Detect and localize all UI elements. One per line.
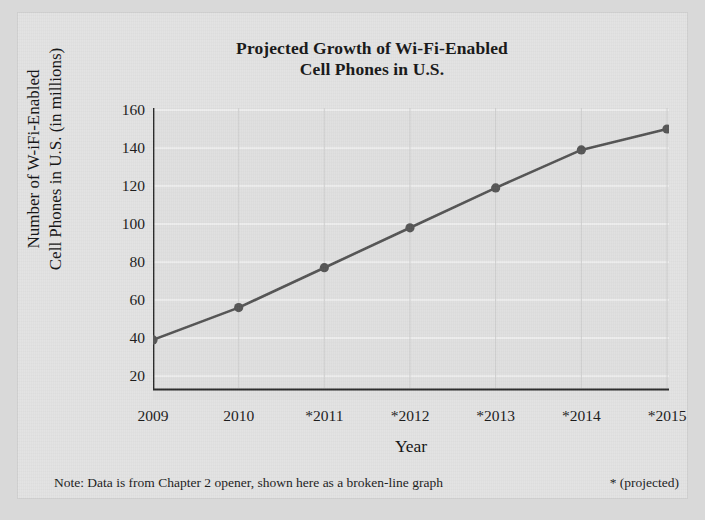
y-tick-label: 160	[105, 102, 145, 118]
x-axis-label: Year	[153, 436, 669, 457]
y-tick-label: 140	[105, 140, 145, 156]
data-point-marker[interactable]	[320, 263, 329, 272]
y-tick-label: 100	[105, 216, 145, 232]
chart-title-line2: Cell Phones in U.S.	[137, 59, 607, 80]
footnote-projected-key: * (projected)	[610, 475, 689, 491]
x-tick-label: 2010	[199, 408, 279, 424]
y-axis-label-line2: Cell Phones in U.S. (in millions)	[45, 0, 67, 374]
x-tick-label: *2015	[627, 408, 705, 424]
line-chart-svg	[153, 108, 669, 400]
data-point-marker[interactable]	[234, 303, 243, 312]
chart-panel: Projected Growth of Wi-Fi-Enabled Cell P…	[17, 12, 688, 499]
chart-footnote: Note: Data is from Chapter 2 opener, sho…	[54, 475, 689, 491]
plot-area	[153, 108, 669, 400]
y-tick-label: 20	[105, 368, 145, 384]
data-point-marker[interactable]	[153, 335, 158, 344]
x-tick-label: *2013	[456, 408, 536, 424]
x-tick-label: *2012	[370, 408, 450, 424]
y-tick-label: 80	[105, 254, 145, 270]
y-axis-label: Number of W-iFi-Enabled Cell Phones in U…	[23, 0, 67, 374]
chart-title-line1: Projected Growth of Wi-Fi-Enabled	[236, 38, 508, 58]
x-tick-label: 2009	[113, 408, 193, 424]
y-tick-label: 120	[105, 178, 145, 194]
x-tick-label: *2014	[541, 408, 621, 424]
y-tick-label: 60	[105, 292, 145, 308]
chart-page: Projected Growth of Wi-Fi-Enabled Cell P…	[0, 0, 705, 520]
x-tick-label: *2011	[284, 408, 364, 424]
y-axis-label-line1: Number of W-iFi-Enabled	[23, 0, 45, 374]
chart-title: Projected Growth of Wi-Fi-Enabled Cell P…	[137, 38, 607, 80]
data-point-marker[interactable]	[662, 124, 669, 133]
y-tick-label: 40	[105, 330, 145, 346]
footnote-note-text: Note: Data is from Chapter 2 opener, sho…	[54, 475, 443, 491]
data-point-marker[interactable]	[405, 223, 414, 232]
data-point-marker[interactable]	[577, 145, 586, 154]
data-point-marker[interactable]	[491, 183, 500, 192]
